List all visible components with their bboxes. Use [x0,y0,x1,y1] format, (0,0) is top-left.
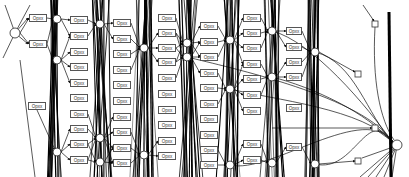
op-node: Opxx [113,159,131,167]
square-node [355,71,361,77]
op-node: Opxx [158,14,176,22]
square-node [372,21,378,27]
op-node: Opxx [158,121,176,129]
op-node: Opxx [286,27,302,35]
op-node: Opxx [70,63,88,71]
op-node: Opxx [113,19,131,27]
op-node: Opxx [113,97,131,105]
op-node: Opxx [28,102,46,110]
op-node: Opxx [70,125,88,133]
op-node: Opxx [200,69,218,77]
op-node: Opxx [243,29,261,37]
junction-node [392,140,402,150]
junction-node [226,36,234,44]
junction-node [96,134,104,142]
op-node: Opxx [200,161,218,169]
op-node: Opxx [243,140,261,148]
op-node: Opxx [70,140,88,148]
op-node: Opxx [113,144,131,152]
op-node: Opxx [286,143,302,151]
op-node: Opxx [286,43,302,51]
op-node: Opxx [200,38,218,46]
op-node: Opxx [158,152,176,160]
op-node: Opxx [70,32,88,40]
junction-node [53,15,61,23]
junction-node [53,56,61,64]
op-node: Opxx [243,91,261,99]
op-node: Opxx [70,16,88,24]
op-node: Opxx [113,66,131,74]
op-node: Opxx [243,60,261,68]
op-node: Opxx [158,74,176,82]
junction-node [96,20,104,28]
op-node: Opxx [200,115,218,123]
op-node: Opxx [200,100,218,108]
op-node: Opxx [70,48,88,56]
op-node: Opxx [286,73,302,81]
op-node: Opxx [158,137,176,145]
junction-node [10,28,20,38]
op-node: Opxx [158,44,176,52]
junction-node [226,161,234,169]
op-node: Opxx [200,22,218,30]
op-node: Opxx [158,90,176,98]
op-node: Opxx [113,128,131,136]
op-node: Opxx [70,79,88,87]
junction-node [268,159,276,167]
op-node: Opxx [158,106,176,114]
op-node: Opxx [243,107,261,115]
junction-node [183,53,191,61]
op-node: Opxx [70,110,88,118]
op-node: Opxx [243,14,261,22]
junction-node [140,151,148,159]
op-node: Opxx [70,94,88,102]
op-node: Opxx [200,53,218,61]
op-node: Opxx [113,35,131,43]
op-node: Opxx [243,75,261,83]
op-node: Opxx [286,104,302,112]
op-node: Opxx [113,113,131,121]
op-node: Opxx [243,44,261,52]
junction-node [183,39,191,47]
junction-node [268,73,276,81]
junction-node [140,44,148,52]
op-node: Opxx [113,81,131,89]
junction-node [96,158,104,166]
junction-node [53,148,61,156]
junction-node [311,48,319,56]
op-node: Opxx [70,156,88,164]
op-node: Opxx [200,146,218,154]
square-node [355,158,361,164]
op-node: Opxx [243,156,261,164]
op-node: Opxx [29,40,47,48]
junction-node [311,160,319,168]
op-node: Opxx [286,58,302,66]
op-node: Opxx [158,29,176,37]
junction-node [268,27,276,35]
op-node: Opxx [29,14,47,22]
square-node [372,125,378,131]
op-node: Opxx [200,84,218,92]
op-node: Opxx [200,131,218,139]
op-node: Opxx [158,58,176,66]
op-node: Opxx [113,50,131,58]
junction-node [226,85,234,93]
